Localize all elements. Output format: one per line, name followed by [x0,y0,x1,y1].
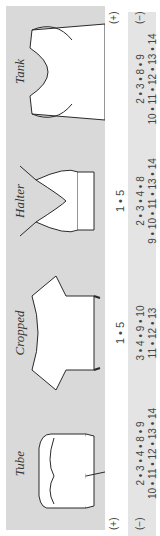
size-row-top: 2 • 3 • 4 • 8 [135,136,147,266]
minus-sign-label-right: (−) [134,12,145,25]
tube-top-illustration [6,401,105,526]
size-range-label: 1 • 5 [114,136,126,266]
size-row-bottom: 9 • 10 • 11 • 13 • 14 [147,136,159,266]
size-row-top: 2 • 3 • 4 • 8 • 9 [135,401,147,506]
size-list: 3 • 4 • 9 • 10 11 • 12 • 13 [135,268,159,398]
plus-sign-label: (+) [108,518,119,531]
size-list: 2 • 3 • 4 • 8 • 9 10 • 11 • 12 • 13 • 14 [135,401,159,506]
halter-top-illustration [6,136,105,266]
garment-cropped: Cropped 1 • 5 3 • 4 • 9 • 10 11 • 12 • 1… [6,268,105,398]
size-row-top: 2 • 3 • 8 • 9 [135,24,147,134]
size-row-top: 3 • 4 • 9 • 10 [135,268,147,398]
garment-style-chart: (+) (−) (+) (−) Tube 2 • 3 • 4 • 8 • 9 1… [0,0,160,536]
size-row-bottom: 11 • 12 • 13 [147,268,159,398]
garment-tank: Tank 2 • 3 • 8 • 9 10 • 11 • 12 • 13 • 1… [6,9,105,134]
size-row-bottom: 10 • 11 • 12 • 13 • 14 [147,24,159,134]
tank-top-illustration [6,9,105,134]
size-list: 2 • 3 • 8 • 9 10 • 11 • 12 • 13 • 14 [135,24,159,134]
garment-halter: Halter 1 • 5 2 • 3 • 4 • 8 9 • 10 • 11 •… [6,136,105,266]
cropped-top-illustration [6,268,105,398]
size-list: 2 • 3 • 4 • 8 9 • 10 • 11 • 13 • 14 [135,136,159,266]
size-row-bottom: 10 • 11 • 12 • 13 • 14 [147,401,159,506]
plus-sign-label-right: (+) [108,12,119,25]
size-range-label: 1 • 5 [114,268,126,398]
minus-sign-label: (−) [134,518,145,531]
garment-tube: Tube 2 • 3 • 4 • 8 • 9 10 • 11 • 12 • 13… [6,401,105,526]
